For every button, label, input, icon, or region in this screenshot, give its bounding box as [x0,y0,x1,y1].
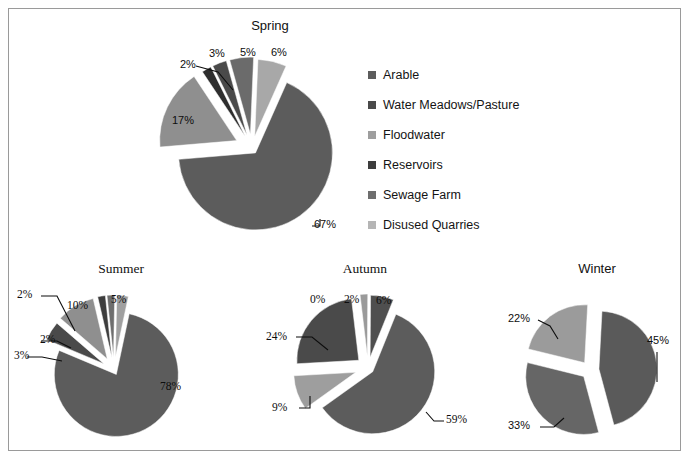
chart-summer-label-water-meadows: 5% [111,293,126,305]
chart-winter: Winter 45% 33% 22% [492,260,682,450]
chart-summer-label-reservoirs: 2% [17,288,32,300]
pie-slice-disused-quarries[interactable] [528,305,587,363]
chart-autumn-pie [258,260,473,450]
legend-label: Floodwater [383,128,445,142]
chart-autumn-label-water-meadows: 9% [272,401,287,413]
legend-item-water-meadows-pasture[interactable]: Water Meadows/Pasture [368,90,568,120]
chart-autumn-label-floodwater: 24% [266,330,287,342]
chart-spring-label-disused-quarries: 6% [271,46,287,58]
chart-autumn-label-sewage-farm: 2% [344,293,359,305]
legend-label: Water Meadows/Pasture [383,98,519,112]
chart-summer-pie [14,260,229,450]
chart-spring-label-sewage-farm: 5% [240,46,256,58]
legend-swatch-icon [368,161,376,169]
chart-summer-label-sewage-farm: 2% [40,333,55,345]
legend-swatch-icon [368,191,376,199]
legend-label: Sewage Farm [383,188,461,202]
pie-slice-water-meadows-pasture[interactable] [526,363,599,435]
chart-autumn-label-arable: 59% [446,413,467,425]
legend-swatch-icon [368,221,376,229]
chart-winter-label-disused-quarries: 22% [508,312,530,324]
chart-spring-label-floodwater: 2% [180,58,196,70]
legend-label: Arable [383,68,419,82]
chart-spring-label-arable: 67% [314,218,336,230]
pie-chart-figure: Spring 67% 17% 2% 3% 5% 6% Arable Water … [0,0,690,462]
legend-label: Disused Quarries [383,218,480,232]
chart-summer-label-arable: 78% [160,380,181,392]
legend-item-reservoirs[interactable]: Reservoirs [368,150,568,180]
chart-autumn-label-disused-quarries: 6% [376,294,391,306]
chart-summer: Summer 78% 5% 10% 2% 2% 3% [14,260,229,450]
chart-spring-label-water-meadows: 17% [172,114,194,126]
chart-spring-label-reservoirs: 3% [209,47,225,59]
chart-autumn-label-reservoirs: 0% [310,293,325,305]
chart-autumn: Autumn 59% 9% 24% 0% 2% 6% [258,260,473,450]
chart-winter-label-water-meadows: 33% [508,419,530,431]
legend-item-arable[interactable]: Arable [368,60,568,90]
chart-spring: Spring 67% 17% 2% 3% 5% 6% [170,14,370,254]
series-legend: Arable Water Meadows/Pasture Floodwater … [368,60,568,240]
legend-item-disused-quarries[interactable]: Disused Quarries [368,210,568,240]
pie-slice-sewage-farm[interactable] [360,294,368,356]
chart-spring-pie [170,14,370,254]
pie-slice-arable[interactable] [599,311,657,425]
legend-swatch-icon [368,101,376,109]
legend-item-floodwater[interactable]: Floodwater [368,120,568,150]
legend-item-sewage-farm[interactable]: Sewage Farm [368,180,568,210]
legend-swatch-icon [368,131,376,139]
legend-swatch-icon [368,71,376,79]
pie-slice-floodwater[interactable] [297,299,359,364]
chart-winter-label-arable: 45% [647,334,669,346]
chart-summer-label-floodwater: 10% [67,299,88,311]
chart-summer-label-disused-quarries: 3% [14,349,29,361]
legend-label: Reservoirs [383,158,443,172]
